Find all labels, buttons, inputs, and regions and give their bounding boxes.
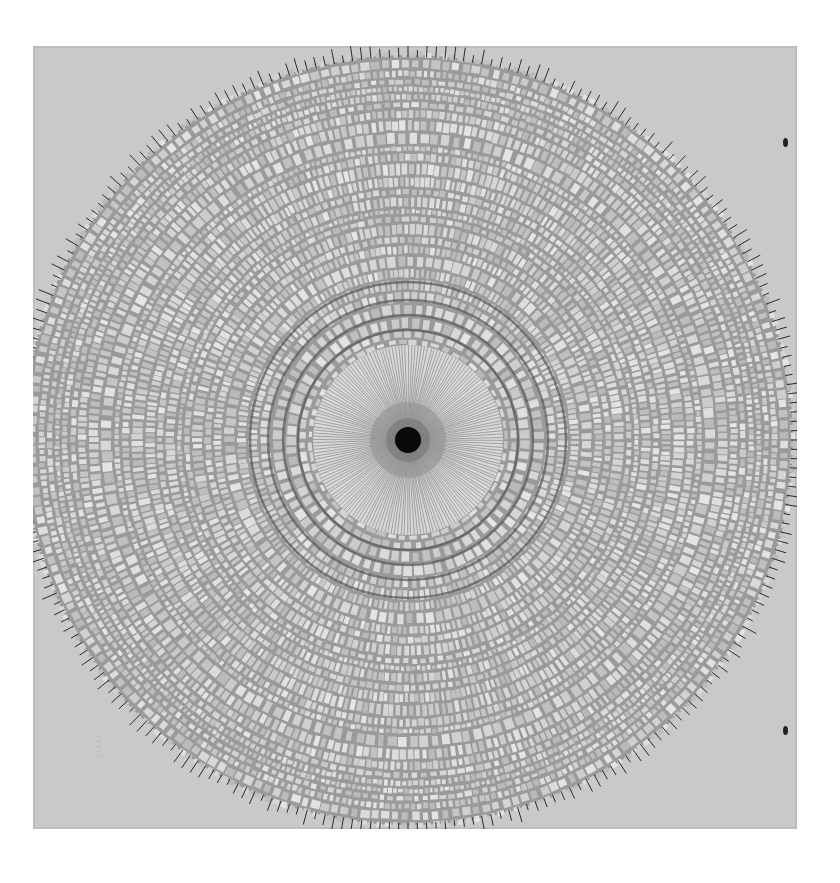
fracture-pattern <box>33 46 797 829</box>
edge-mark <box>783 138 788 147</box>
glass-plate-photo: ···················· <box>33 46 797 829</box>
edge-mark <box>783 726 788 735</box>
corner-stamp: ···················· <box>88 734 110 759</box>
